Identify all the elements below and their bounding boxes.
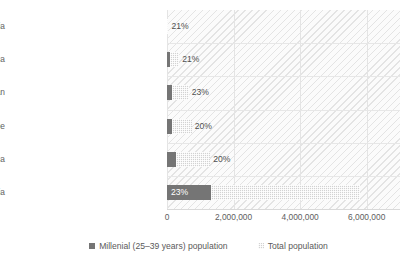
gridline-y [167, 176, 400, 177]
plot-area [167, 10, 400, 209]
bar-value-label: 23% [171, 187, 188, 198]
bar-row [167, 152, 400, 167]
category-label: Northern America [0, 54, 5, 64]
bar-value-label: 20% [213, 154, 230, 165]
bar-segment-total [172, 119, 192, 134]
gridline-y [167, 143, 400, 144]
bar-segment-total [170, 52, 180, 67]
category-label: Africa [0, 154, 5, 164]
bar-segment-total [211, 185, 360, 200]
bar-segment-total [172, 85, 189, 100]
horizontal-bar-chart: Millenial (25–39 years) populationTotal … [0, 0, 417, 265]
bar-row [167, 19, 400, 34]
category-label: Latin America and the Caribbean [0, 87, 5, 97]
category-label: Asia [0, 187, 5, 197]
x-tick-label: 2,000,000 [215, 212, 252, 223]
bar-value-label: 20% [195, 121, 212, 132]
bar-segment-total [176, 152, 211, 167]
chart-legend: Millenial (25–39 years) populationTotal … [0, 241, 417, 251]
x-tick-label: 6,000,000 [348, 212, 385, 223]
bar-row [167, 185, 400, 200]
bar-value-label: 21% [171, 21, 188, 32]
gridline-y [167, 76, 400, 77]
legend-item-label: Total population [268, 241, 328, 251]
category-label: Europe [0, 121, 5, 131]
bar-value-label: 23% [192, 87, 209, 98]
bar-row [167, 52, 400, 67]
legend-swatch-icon [258, 243, 264, 249]
legend-swatch-icon [89, 243, 95, 249]
legend-item-label: Millenial (25–39 years) population [99, 241, 228, 251]
bar-segment-millenial [167, 152, 176, 167]
bar-value-label: 21% [182, 54, 199, 65]
x-tick-label: 4,000,000 [282, 212, 319, 223]
bar-segment-total [167, 19, 168, 34]
legend-item[interactable]: Total population [258, 241, 328, 251]
legend-item[interactable]: Millenial (25–39 years) population [89, 241, 228, 251]
category-label: Oceania [0, 21, 5, 31]
gridline-y [167, 43, 400, 44]
x-tick-label: 0 [165, 212, 170, 223]
gridline-y [167, 110, 400, 111]
x-axis-line [167, 209, 400, 210]
